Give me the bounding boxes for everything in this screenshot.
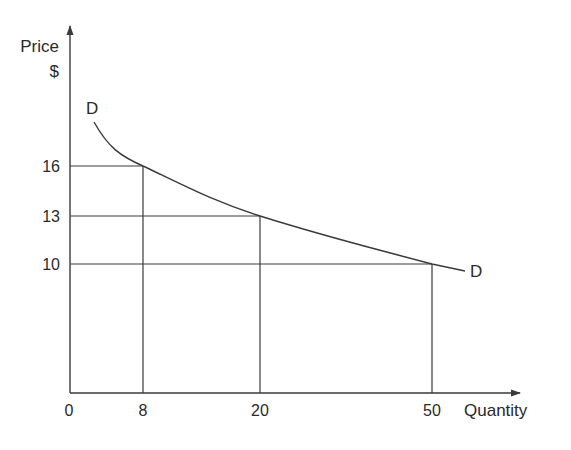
curve-label-start: D — [86, 99, 98, 118]
x-tick-origin: 0 — [65, 402, 74, 419]
y-axis-unit: $ — [50, 62, 60, 81]
x-tick-50: 50 — [423, 402, 441, 419]
y-tick-13: 13 — [42, 208, 60, 225]
y-tick-16: 16 — [42, 158, 60, 175]
x-axis-title: Quantity — [464, 401, 528, 420]
x-tick-20: 20 — [251, 402, 269, 419]
demand-curve — [94, 122, 465, 271]
demand-curve-chart: D D Price $ 16 13 10 0 8 20 50 Quantity — [0, 0, 571, 450]
curve-label-end: D — [470, 262, 482, 281]
x-tick-8: 8 — [139, 402, 148, 419]
y-axis-title: Price — [20, 37, 59, 56]
y-tick-10: 10 — [42, 256, 60, 273]
